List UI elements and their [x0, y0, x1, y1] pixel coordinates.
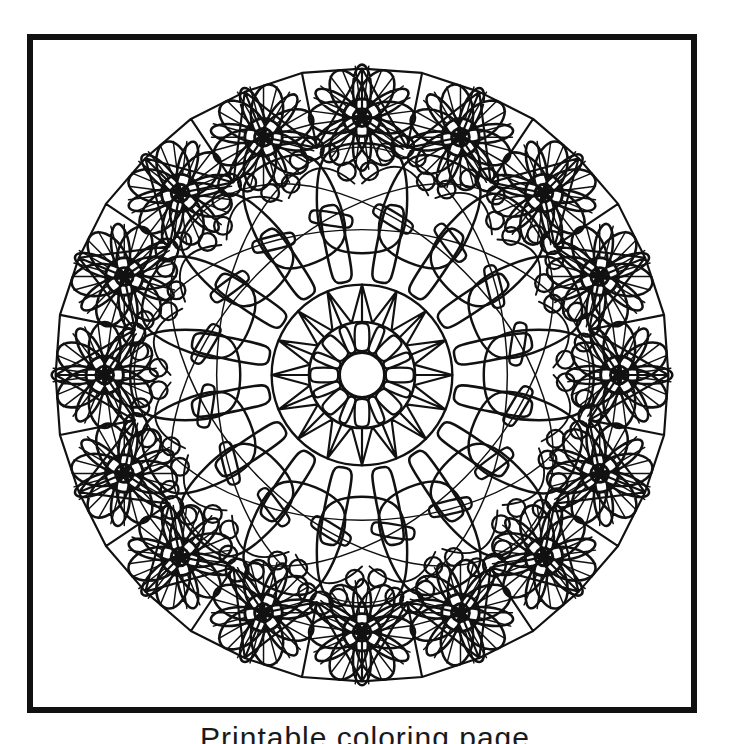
core-petal [386, 368, 414, 383]
bead-circle [214, 217, 232, 235]
core-petal [355, 323, 370, 351]
core-star [272, 285, 453, 466]
outer-polygon-web [56, 69, 669, 682]
page-canvas: Printable coloring page [0, 0, 730, 744]
sweep-ellipse [217, 147, 508, 603]
core-petal-ring [310, 323, 414, 427]
lobe-cell [166, 179, 308, 321]
bead-arc-ring [123, 136, 602, 615]
core-star-web [272, 285, 453, 466]
bead-circle [220, 521, 238, 539]
polygon-web-path [56, 69, 669, 682]
mandala-artwork [33, 40, 691, 707]
lobe-cell [166, 429, 308, 571]
center-disc [339, 352, 384, 397]
lobe-cell [416, 179, 558, 321]
bead-circle [199, 233, 217, 251]
sweep-ellipse [134, 230, 590, 521]
artwork-frame [27, 34, 697, 713]
bead-circle [486, 212, 504, 230]
page-caption: Printable coloring page [0, 721, 730, 744]
bead-circle [492, 515, 510, 533]
lobe-cell [416, 429, 558, 571]
core-petal [310, 368, 338, 383]
core-petal [355, 399, 370, 427]
bead-circle [508, 499, 526, 517]
bead-circle [204, 505, 222, 523]
bead-circle [502, 227, 520, 245]
